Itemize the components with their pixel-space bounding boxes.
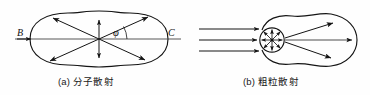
- scattering-angle-label: φ: [113, 27, 119, 38]
- internal-starburst-rays: [262, 30, 283, 51]
- panel-b-caption: (b) 粗粒散射: [243, 74, 299, 88]
- figure-canvas: C -->: [0, 0, 370, 95]
- ray-lower-left: [50, 39, 99, 61]
- panel-a-group: C -->: [15, 11, 181, 67]
- panel-a-caption: (a) 分子散射: [58, 74, 114, 88]
- scattering-angle-arc: [124, 27, 128, 40]
- outgoing-scattered-rays: [285, 23, 352, 58]
- scattering-diagram-figure: C -->: [0, 0, 370, 95]
- scattered-ray-up: [285, 23, 333, 38]
- transmitted-beam-label: C: [168, 27, 175, 38]
- panel-b-group: [199, 14, 357, 67]
- incident-beam-label: B: [17, 27, 23, 38]
- ray-upper-left: [53, 18, 99, 39]
- incoming-parallel-beams: [199, 29, 259, 51]
- ray-lower-right: [99, 39, 145, 60]
- ray-upper-right: [99, 17, 148, 39]
- scattered-ray-down: [285, 42, 331, 58]
